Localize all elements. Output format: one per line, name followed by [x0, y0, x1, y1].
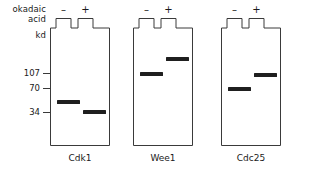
gel-outline: [133, 18, 193, 146]
protein-band: [57, 100, 80, 104]
lane-sign-plus: +: [162, 5, 176, 15]
lane-sign-minus: –: [57, 5, 71, 15]
gel-outline: [221, 18, 281, 146]
lane-sign-plus: +: [250, 5, 264, 15]
gel-panel-cdc25: –+: [221, 18, 281, 146]
mw-marker-label: 107: [12, 68, 40, 78]
protein-band: [228, 87, 251, 91]
mw-marker-label: 70: [12, 83, 40, 93]
gel-outline: [50, 18, 110, 146]
gel-caption-cdk1: Cdk1: [50, 153, 110, 163]
protein-band: [83, 110, 106, 114]
gel-caption-wee1: Wee1: [133, 153, 193, 163]
mw-marker-label: 34: [12, 107, 40, 117]
gel-figure: okadaic acid kd 1077034 –+Cdk1–+Wee1–+Cd…: [0, 0, 312, 171]
mw-marker-tick: [43, 112, 50, 113]
okadaic-acid-label-line2: acid: [0, 14, 46, 24]
mw-marker-tick: [43, 73, 50, 74]
gel-caption-cdc25: Cdc25: [221, 153, 281, 163]
gel-panel-cdk1: –+: [50, 18, 110, 146]
gel-panel-wee1: –+: [133, 18, 193, 146]
lane-sign-minus: –: [228, 5, 242, 15]
mw-marker-tick: [43, 88, 50, 89]
okadaic-acid-label-line1: okadaic: [0, 4, 46, 14]
protein-band: [140, 72, 163, 76]
kd-units-label: kd: [0, 30, 46, 40]
protein-band: [166, 57, 189, 61]
lane-sign-plus: +: [79, 5, 93, 15]
lane-sign-minus: –: [140, 5, 154, 15]
protein-band: [254, 73, 277, 77]
